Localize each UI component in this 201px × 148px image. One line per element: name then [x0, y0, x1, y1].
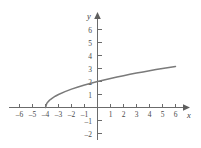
y-tick-label-5: 5	[88, 39, 92, 48]
x-tick-label-3: 3	[135, 110, 139, 119]
y-tick-label--1: –1	[84, 117, 93, 126]
x-tick-label--4: –4	[41, 110, 50, 119]
x-tick-label--6: –6	[15, 110, 24, 119]
x-tick-label-6: 6	[174, 110, 178, 119]
y-axis-arrowhead	[94, 12, 101, 19]
y-tick-labels: 6 5 4 3 2 1 –1 –2	[84, 26, 93, 139]
y-axis-label: y	[86, 11, 91, 21]
x-tick-labels: –6 –5 –4 –3 –2 –1 1 2 3 4 5 6	[15, 110, 178, 119]
x-tick-label--3: –3	[54, 110, 63, 119]
x-axis-label: x	[186, 110, 191, 120]
function-curve	[46, 66, 176, 107]
x-tick-label-4: 4	[148, 110, 152, 119]
x-tick-label-5: 5	[161, 110, 165, 119]
y-tick-label-4: 4	[88, 52, 92, 61]
x-tick-label-1: 1	[109, 110, 113, 119]
x-tick-label-2: 2	[122, 110, 126, 119]
y-tick-label--2: –2	[84, 130, 93, 139]
y-tick-label-1: 1	[88, 91, 92, 100]
y-tick-label-3: 3	[88, 65, 92, 74]
y-tick-label-2: 2	[88, 78, 92, 87]
x-tick-label--2: –2	[67, 110, 76, 119]
y-tick-label-6: 6	[88, 26, 92, 35]
coordinate-plane-svg: –6 –5 –4 –3 –2 –1 1 2 3 4 5 6 6 5 4 3 2 …	[0, 0, 201, 148]
graph-figure: –6 –5 –4 –3 –2 –1 1 2 3 4 5 6 6 5 4 3 2 …	[0, 0, 201, 148]
x-tick-label--5: –5	[28, 110, 37, 119]
